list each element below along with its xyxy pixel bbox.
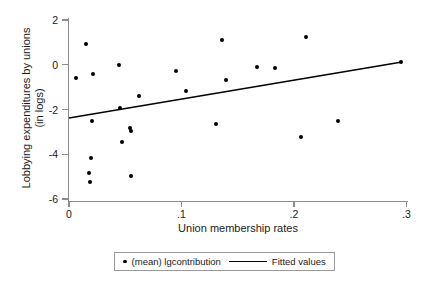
scatter-point — [117, 63, 122, 68]
x-tick-label: .2 — [279, 209, 309, 219]
scatter-point — [184, 89, 189, 94]
scatter-point — [91, 72, 96, 77]
legend-entry-line: Fitted values — [229, 256, 326, 267]
scatter-point — [304, 35, 309, 40]
scatter-point — [129, 129, 134, 134]
scatter-point — [174, 69, 179, 74]
scatter-point — [74, 76, 79, 81]
legend-entry-scatter: (mean) lgcontribution — [123, 256, 221, 267]
scatter-point — [88, 180, 93, 185]
scatter-point — [273, 66, 278, 71]
scatter-point — [299, 135, 304, 140]
chart-figure: 20-2-4-6 0.1.2.3 Lobbying expenditures b… — [0, 0, 427, 287]
scatter-point — [84, 42, 89, 47]
legend-label-scatter: (mean) lgcontribution — [132, 256, 221, 267]
line-swatch-icon — [229, 261, 267, 263]
scatter-point — [137, 94, 142, 99]
scatter-point — [224, 78, 229, 83]
x-tick-label: 0 — [54, 209, 84, 219]
y-tick — [62, 198, 68, 199]
scatter-point — [120, 140, 125, 145]
scatter-point — [255, 65, 260, 70]
scatter-point — [129, 174, 134, 179]
scatter-point — [87, 171, 92, 176]
x-axis-line — [68, 201, 408, 202]
y-axis-title-line2: (in logs) — [33, 15, 46, 201]
x-tick-label: .3 — [392, 209, 422, 219]
scatter-point — [214, 122, 219, 127]
scatter-point — [89, 156, 94, 161]
x-tick — [68, 201, 69, 207]
legend-label-line: Fitted values — [272, 256, 326, 267]
scatter-point — [118, 106, 123, 111]
filled-circle-icon — [123, 260, 127, 264]
x-tick-label: .1 — [167, 209, 197, 219]
y-axis-line — [68, 18, 69, 202]
y-tick — [62, 154, 68, 155]
x-tick — [406, 201, 407, 207]
y-tick — [62, 109, 68, 110]
x-axis-title: Union membership rates — [68, 222, 408, 234]
scatter-point — [336, 119, 341, 124]
y-axis-title-line1: Lobbying expenditures by unions — [20, 15, 33, 201]
chart-legend: (mean) lgcontribution Fitted values — [114, 252, 335, 271]
x-tick — [293, 201, 294, 207]
y-axis-title: Lobbying expenditures by unions (in logs… — [20, 15, 46, 201]
scatter-point — [399, 60, 404, 65]
plot-area: 20-2-4-6 0.1.2.3 — [0, 0, 427, 287]
scatter-point — [90, 119, 95, 124]
y-tick — [62, 19, 68, 20]
x-tick — [181, 201, 182, 207]
y-tick — [62, 64, 68, 65]
scatter-point — [220, 38, 225, 43]
fitted-values-line — [0, 0, 427, 287]
